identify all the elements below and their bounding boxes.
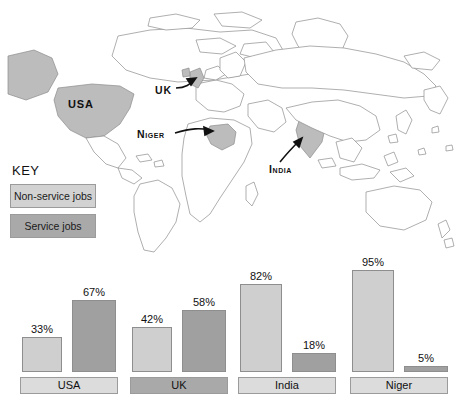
- bar-niger-service: [404, 366, 448, 372]
- map-label-uk: UK: [155, 84, 172, 96]
- bar-value-niger-non-service: 95%: [352, 256, 394, 268]
- world-map-panel: USA UK Niger India KEY Non-service jobs …: [0, 0, 458, 258]
- bar-uk-service: [182, 310, 226, 372]
- bar-group-india: 82% 18%: [238, 272, 336, 372]
- bar-usa-service: [72, 300, 116, 372]
- map-label-niger: Niger: [137, 128, 165, 140]
- bar-group-niger: 95% 5%: [350, 272, 448, 372]
- group-label-india: India: [238, 377, 336, 394]
- bar-group-uk: 42% 58%: [130, 272, 228, 372]
- bar-value-niger-service: 5%: [404, 352, 448, 364]
- bar-india-service: [292, 353, 336, 372]
- bar-value-india-non-service: 82%: [240, 270, 282, 282]
- bar-group-usa: 33% 67%: [20, 272, 118, 372]
- key-title: KEY: [12, 163, 110, 178]
- map-label-usa: USA: [68, 98, 94, 110]
- bar-niger-non-service: [352, 270, 394, 372]
- bar-india-non-service: [240, 284, 282, 372]
- bar-value-india-service: 18%: [292, 339, 336, 351]
- group-label-uk: UK: [130, 377, 228, 394]
- bar-value-uk-non-service: 42%: [132, 313, 172, 325]
- map-label-india: India: [269, 163, 292, 175]
- bar-value-uk-service: 58%: [182, 296, 226, 308]
- map-key-legend: KEY Non-service jobs Service jobs: [10, 163, 110, 244]
- key-item-non-service-jobs: Non-service jobs: [10, 184, 96, 208]
- figure-jobs-by-country: USA UK Niger India KEY Non-service jobs …: [0, 0, 458, 402]
- key-item-service-jobs: Service jobs: [10, 214, 96, 238]
- bar-value-usa-non-service: 33%: [22, 323, 62, 335]
- group-label-usa: USA: [20, 377, 118, 394]
- bar-usa-non-service: [22, 337, 62, 372]
- group-label-niger: Niger: [350, 377, 448, 394]
- bar-uk-non-service: [132, 327, 172, 372]
- bar-chart: 33% 67% USA 42% 58% UK 82% 18% India 95%…: [0, 258, 458, 402]
- bar-value-usa-service: 67%: [72, 286, 116, 298]
